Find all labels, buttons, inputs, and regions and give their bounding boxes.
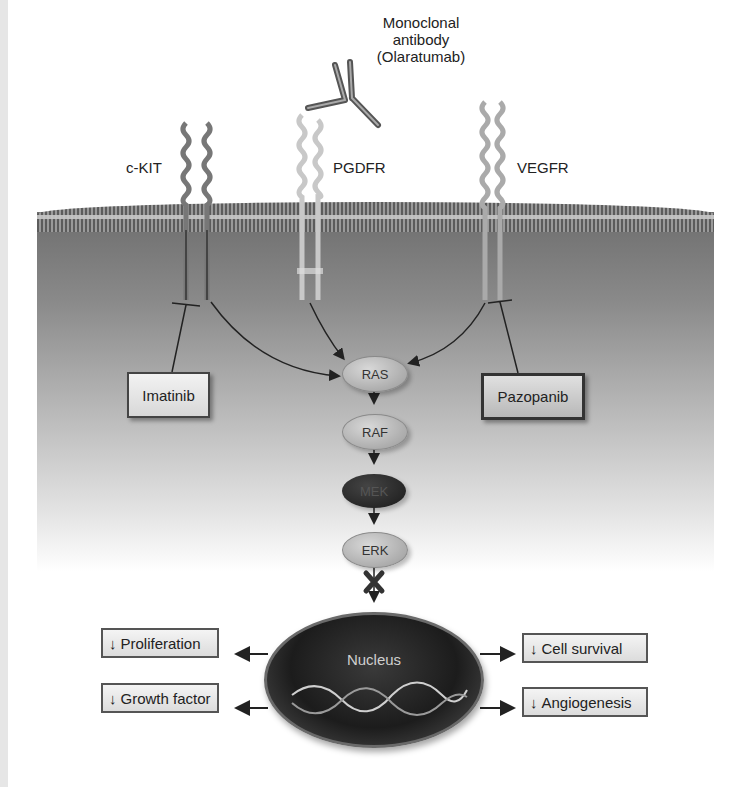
- imatinib-box: Imatinib: [127, 372, 210, 418]
- ras-node: RAS: [342, 356, 408, 392]
- ckit-label: c-KIT: [126, 159, 162, 176]
- vegfr-receptor-icon: [482, 102, 503, 300]
- pazopanib-box: Pazopanib: [481, 373, 585, 420]
- down-arrow-icon: ↓: [109, 635, 117, 652]
- mek-node: MEK: [342, 474, 406, 508]
- vegfr-label: VEGFR: [517, 159, 569, 176]
- antibody-label-line1: Monoclonal: [366, 14, 476, 31]
- pazopanib-inhibition-icon: [488, 300, 518, 373]
- antibody-label-line2: antibody: [366, 31, 476, 48]
- pgdfr-label: PGDFR: [333, 159, 386, 176]
- down-arrow-icon: ↓: [530, 640, 538, 657]
- dna-helix-icon: [267, 615, 481, 745]
- erk-node: ERK: [342, 532, 408, 568]
- effect-angiogenesis-label: Angiogenesis: [542, 694, 632, 711]
- pgdfr-to-ras-arrow-icon: [310, 303, 343, 358]
- pgdfr-receptor-icon: [297, 115, 323, 300]
- vegfr-to-ras-arrow-icon: [410, 303, 485, 363]
- ckit-to-ras-arrow-icon: [211, 302, 338, 376]
- effect-cell-survival-label: Cell survival: [542, 640, 623, 657]
- antibody-label: Monoclonal antibody (Olaratumab): [366, 14, 476, 65]
- effect-proliferation: ↓ Proliferation: [101, 628, 219, 658]
- imatinib-inhibition-icon: [172, 303, 200, 372]
- nucleus: Nucleus: [264, 612, 484, 748]
- effect-proliferation-label: Proliferation: [121, 635, 201, 652]
- effect-growth-factor: ↓ Growth factor: [101, 683, 219, 713]
- raf-node: RAF: [342, 414, 408, 450]
- effect-cell-survival: ↓ Cell survival: [522, 633, 648, 663]
- down-arrow-icon: ↓: [530, 694, 538, 711]
- effect-angiogenesis: ↓ Angiogenesis: [522, 687, 648, 717]
- down-arrow-icon: ↓: [109, 690, 117, 707]
- antibody-icon: [308, 62, 378, 125]
- effect-growth-factor-label: Growth factor: [121, 690, 211, 707]
- antibody-label-line3: (Olaratumab): [366, 48, 476, 65]
- ckit-receptor-icon: [183, 123, 210, 300]
